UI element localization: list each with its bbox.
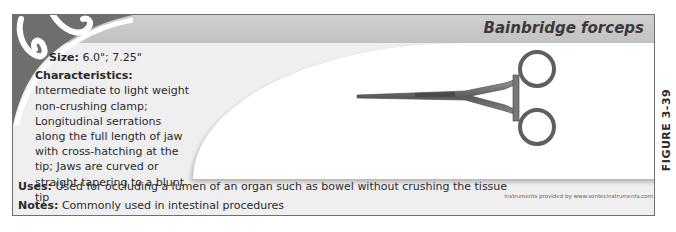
- uses-label: Uses:: [18, 180, 52, 193]
- size-label: Size:: [49, 51, 79, 64]
- figure-number: FIGURE 3-39: [660, 89, 673, 171]
- instrument-title: Bainbridge forceps: [484, 19, 644, 37]
- forceps-illustration-icon: [355, 49, 575, 159]
- uses-value: Used for occluding a lumen of an organ s…: [55, 180, 507, 193]
- image-credit: Instruments provided by www.sontecinstru…: [504, 193, 653, 199]
- characteristics-label: Characteristics:: [35, 69, 133, 82]
- uses-row: Uses: Used for occluding a lumen of an o…: [18, 180, 507, 193]
- notes-label: Notes:: [18, 199, 58, 212]
- notes-row: Notes: Commonly used in intestinal proce…: [18, 199, 284, 212]
- size-value: 6.0"; 7.25": [82, 51, 141, 64]
- figure-label: FIGURE 3-39: [656, 80, 676, 180]
- size-row: Size: 6.0"; 7.25": [27, 50, 195, 65]
- notes-value: Commonly used in intestinal procedures: [62, 199, 284, 212]
